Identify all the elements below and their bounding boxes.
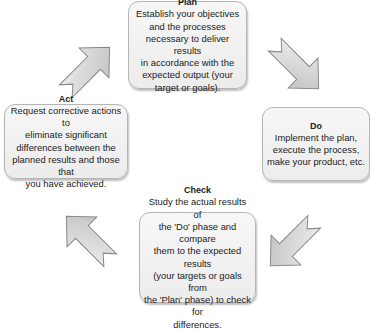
act-title: Act xyxy=(59,93,74,105)
act-description: Request corrective actions to eliminate … xyxy=(9,105,123,190)
do-title: Do xyxy=(310,120,322,132)
act-node: Act Request corrective actions to elimin… xyxy=(4,104,128,179)
check-node: Check Study the actual results of the 'D… xyxy=(139,212,256,303)
arrow-down-left-icon xyxy=(256,207,330,281)
check-title: Check xyxy=(184,184,211,196)
check-description: Study the actual results of the 'Do' pha… xyxy=(144,196,251,330)
plan-title: Plan xyxy=(178,0,197,8)
plan-description: Establish your objectives and the proces… xyxy=(133,8,242,93)
arrow-down-right-icon xyxy=(260,30,334,104)
do-description: Implement the plan, execute the process,… xyxy=(267,132,365,169)
do-node: Do Implement the plan, execute the proce… xyxy=(262,107,370,181)
arrow-up-left-icon xyxy=(52,202,126,276)
plan-node: Plan Establish your objectives and the p… xyxy=(128,1,247,89)
